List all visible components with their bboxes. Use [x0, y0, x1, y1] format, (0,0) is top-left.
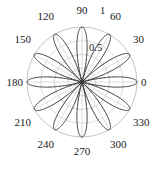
radial-label-half: 0.5	[89, 42, 102, 53]
polar-plot: 0 30 60 90 120 150 180 210 240 270 300 3…	[0, 0, 165, 173]
tick-label-150: 150	[15, 33, 32, 45]
tick-label-30: 30	[133, 33, 145, 45]
tick-label-330: 330	[133, 116, 150, 128]
tick-label-300: 300	[110, 138, 127, 150]
radial-label-one: 1	[100, 5, 105, 16]
tick-label-90: 90	[77, 4, 89, 16]
tick-label-0: 0	[141, 76, 147, 88]
polar-chart-screenshot: 0 30 60 90 120 150 180 210 240 270 300 3…	[0, 0, 165, 173]
tick-label-60: 60	[110, 10, 122, 22]
tick-label-240: 240	[38, 138, 55, 150]
tick-label-210: 210	[15, 116, 32, 128]
tick-label-120: 120	[38, 10, 55, 22]
tick-label-270: 270	[74, 145, 91, 157]
tick-label-180: 180	[7, 76, 24, 88]
